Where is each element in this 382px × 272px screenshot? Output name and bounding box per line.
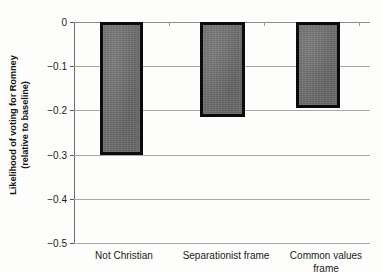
- y-tick-label-1: −0.1: [47, 61, 67, 72]
- y-tick-label-2: −0.2: [47, 105, 67, 116]
- bar-not-christian[interactable]: [100, 22, 143, 155]
- y-tick-label-5: −0.5: [47, 238, 67, 249]
- bar-chart-figure: Likelihood of voting for Romney (relativ…: [0, 0, 382, 272]
- y-tick-1: [70, 66, 74, 67]
- plot-area: 0 −0.1 −0.2 −0.3 −0.4 −0.5: [74, 22, 370, 243]
- y-axis-title-line-2: (relative to baseline): [20, 30, 32, 220]
- bar-fill-texture: [299, 25, 337, 105]
- gridline-4: [74, 199, 370, 200]
- y-tick-5: [70, 243, 74, 244]
- x-axis-label-separationist-frame: Separationist frame: [172, 250, 280, 263]
- x-axis-label-not-christian: Not Christian: [74, 250, 174, 263]
- y-tick-4: [70, 199, 74, 200]
- x-minor-tick-3: [359, 22, 360, 26]
- y-tick-2: [70, 110, 74, 111]
- y-tick-label-4: −0.4: [47, 193, 67, 204]
- bar-fill-texture: [203, 25, 242, 114]
- x-minor-tick-1: [169, 22, 170, 26]
- y-tick-label-3: −0.3: [47, 149, 67, 160]
- bar-fill-texture: [103, 25, 140, 152]
- y-axis-title: Likelihood of voting for Romney (relativ…: [0, 0, 44, 250]
- x-minor-tick-2: [264, 22, 265, 26]
- y-tick-label-0: 0: [61, 17, 67, 28]
- y-tick-0: [70, 22, 74, 23]
- bar-common-values-frame[interactable]: [296, 22, 340, 108]
- y-axis-title-line-1: Likelihood of voting for Romney: [8, 30, 20, 220]
- gridline-3: [74, 155, 370, 156]
- gridline-5: [74, 243, 370, 244]
- x-axis-label-common-values-frame: Common values frame: [278, 250, 374, 272]
- y-tick-3: [70, 155, 74, 156]
- bar-separationist-frame[interactable]: [200, 22, 245, 117]
